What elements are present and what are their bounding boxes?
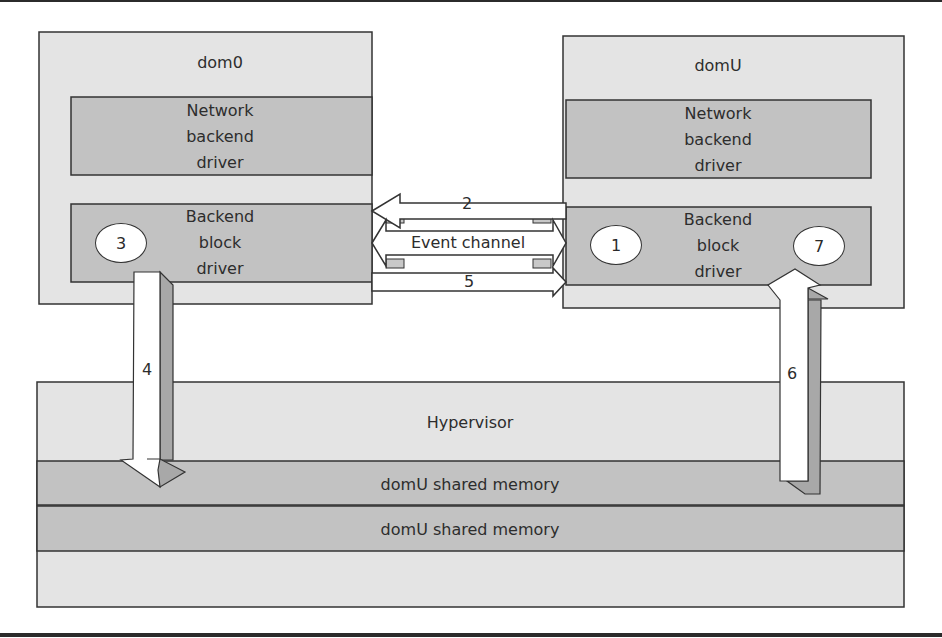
- dom0-label: dom0: [170, 50, 270, 76]
- dom0-network-line3: driver: [170, 150, 270, 176]
- arrow-4-label: 4: [142, 360, 152, 379]
- step-7-oval: 7: [793, 226, 845, 266]
- dom0-network-driver-label: Network backend driver: [170, 98, 270, 176]
- dom0-block-line1: Backend: [170, 204, 270, 230]
- event-channel-label: Event channel: [398, 230, 538, 256]
- bottom-rule: [0, 633, 942, 637]
- arrow-2-label: 2: [462, 194, 472, 213]
- shared-memory-label-1: domU shared memory: [330, 472, 610, 498]
- dom0-block-line3: driver: [170, 256, 270, 282]
- arrow-5-label: 5: [464, 272, 474, 291]
- dom0-network-line1: Network: [170, 98, 270, 124]
- domU-network-line3: driver: [668, 153, 768, 179]
- domU-network-driver-label: Network backend driver: [668, 101, 768, 179]
- dom0-block-driver-label: Backend block driver: [170, 204, 270, 282]
- domU-block-line2: block: [668, 233, 768, 259]
- arrow-6-label: 6: [787, 364, 797, 383]
- dom0-network-line2: backend: [170, 124, 270, 150]
- shared-memory-label-2: domU shared memory: [330, 517, 610, 543]
- domU-block-line1: Backend: [668, 207, 768, 233]
- domU-block-driver-label: Backend block driver: [668, 207, 768, 285]
- domU-label: domU: [668, 53, 768, 79]
- arrow-4-shadow: [160, 272, 173, 460]
- domU-network-line1: Network: [668, 101, 768, 127]
- step-1-oval: 1: [590, 225, 642, 265]
- step-3-oval: 3: [95, 223, 147, 263]
- hypervisor-label: Hypervisor: [380, 410, 560, 436]
- dom0-block-line2: block: [170, 230, 270, 256]
- domU-network-line2: backend: [668, 127, 768, 153]
- domU-block-line3: driver: [668, 259, 768, 285]
